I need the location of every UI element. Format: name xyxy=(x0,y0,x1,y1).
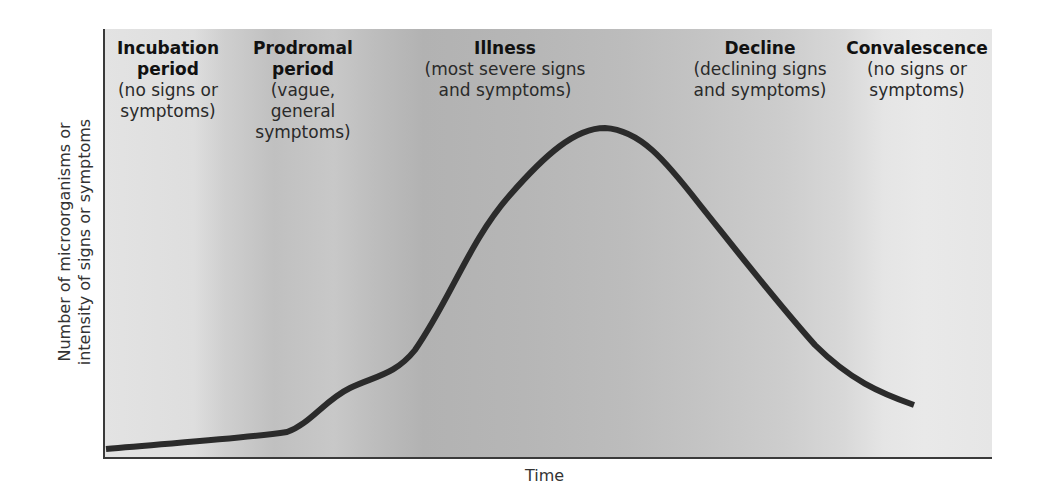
y-axis-label-line: intensity of signs or symptoms xyxy=(75,77,95,407)
disease-stages-figure: Incubation period (no signs or symptoms)… xyxy=(0,0,1043,490)
y-axis-line xyxy=(103,29,105,459)
disease-progression-curve xyxy=(0,0,1043,490)
x-axis-label: Time xyxy=(525,466,564,485)
y-axis-label: Number of microorganisms or intensity of… xyxy=(55,77,95,407)
y-axis-label-line: Number of microorganisms or xyxy=(55,77,75,407)
x-axis-line xyxy=(103,457,992,459)
